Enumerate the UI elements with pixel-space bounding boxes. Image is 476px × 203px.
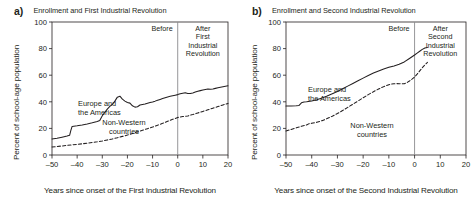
x-tick-label: 20 xyxy=(462,160,470,169)
panel-b: b) Enrollment and Second Industrial Revo… xyxy=(238,0,476,203)
x-tick-label: –50 xyxy=(280,160,293,169)
panel-b-before-label: Before xyxy=(388,24,409,33)
x-tick-label: –10 xyxy=(146,160,159,169)
panel-a-x-tick-labels: –50–40–30–20–1001020 xyxy=(46,160,233,169)
panel-b-after-label: AfterSecondIndustrialRevolution xyxy=(423,24,457,58)
y-tick-label: 60 xyxy=(39,71,47,80)
series-inline-label: the Americas xyxy=(308,94,351,103)
x-tick-label: –40 xyxy=(305,160,318,169)
x-tick-label: –20 xyxy=(357,160,370,169)
panel-b-x-ticks xyxy=(286,155,466,159)
after-label-line: Revolution xyxy=(423,49,457,58)
x-tick-label: –40 xyxy=(71,160,84,169)
panel-b-y-ticks xyxy=(283,22,286,155)
y-tick-label: 0 xyxy=(43,151,47,160)
x-tick-label: –20 xyxy=(121,160,134,169)
panel-b-y-tick-labels: 020406080100 xyxy=(268,18,281,160)
x-tick-label: 0 xyxy=(412,160,416,169)
series-inline-label: countries xyxy=(357,130,387,139)
x-tick-label: 10 xyxy=(436,160,444,169)
series-inline-label: countries xyxy=(109,127,139,136)
panel-a-y-ticks xyxy=(49,22,52,155)
y-tick-label: 60 xyxy=(273,71,281,80)
panel-a-label-non-western: Non-Westerncountries xyxy=(102,118,145,136)
y-tick-label: 100 xyxy=(268,18,281,27)
x-tick-label: –10 xyxy=(383,160,396,169)
panel-b-label-europe-americas: Europe andthe Americas xyxy=(308,85,351,103)
panel-a-before-label: Before xyxy=(152,24,173,33)
y-tick-label: 80 xyxy=(39,44,47,53)
series-inline-label: the Americas xyxy=(78,108,121,117)
x-tick-label: 20 xyxy=(224,160,232,169)
after-label-line: Revolution xyxy=(186,49,220,58)
y-tick-label: 100 xyxy=(34,18,47,27)
panel-b-label-non-western: Non-Westerncountries xyxy=(350,121,393,139)
panel-a-y-tick-labels: 020406080100 xyxy=(34,18,47,160)
panel-a: a) Enrollment and First Industrial Revol… xyxy=(0,0,238,203)
y-tick-label: 80 xyxy=(273,44,281,53)
x-tick-label: 10 xyxy=(199,160,207,169)
x-tick-label: –30 xyxy=(96,160,109,169)
panel-a-plot: 020406080100 –50–40–30–20–1001020 Before… xyxy=(0,0,238,203)
panel-a-x-ticks xyxy=(52,155,228,159)
y-tick-label: 40 xyxy=(273,98,281,107)
x-tick-label: –30 xyxy=(331,160,344,169)
y-tick-label: 40 xyxy=(39,98,47,107)
panel-a-label-europe-americas: Europe andthe Americas xyxy=(78,99,121,117)
y-tick-label: 20 xyxy=(273,124,281,133)
figure-enrollment-industrial-revolutions: a) Enrollment and First Industrial Revol… xyxy=(0,0,476,203)
panel-b-x-tick-labels: –50–40–30–20–1001020 xyxy=(280,160,471,169)
x-tick-label: 0 xyxy=(176,160,180,169)
panel-b-plot: 020406080100 –50–40–30–20–1001020 Before… xyxy=(238,0,476,203)
panel-a-after-label: AfterFirstIndustrialRevolution xyxy=(186,24,220,58)
x-tick-label: –50 xyxy=(46,160,59,169)
y-tick-label: 0 xyxy=(277,151,281,160)
y-tick-label: 20 xyxy=(39,124,47,133)
